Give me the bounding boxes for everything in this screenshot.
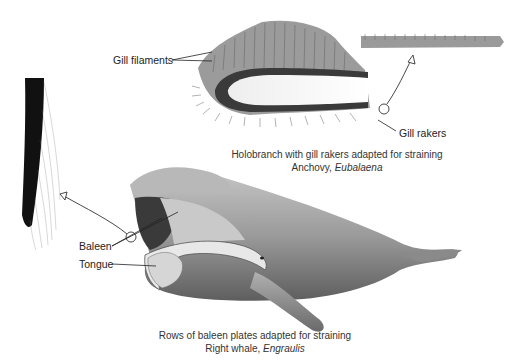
illustration	[0, 0, 524, 363]
magnify-arrow-gill	[387, 58, 412, 104]
gill-raker-magnified	[361, 34, 504, 48]
baleen-plate-magnified	[22, 78, 60, 250]
caption-holobranch: Holobranch with gill rakers adapted for …	[222, 148, 452, 174]
caption-holobranch-common: Anchovy,	[292, 162, 335, 173]
caption-baleen: Rows of baleen plates adapted for strain…	[150, 329, 360, 355]
label-tongue: Tongue	[79, 258, 113, 270]
magnify-arrow-baleen	[64, 196, 127, 234]
label-gill-rakers: Gill rakers	[399, 127, 446, 139]
label-gill-filaments: Gill filaments	[113, 54, 173, 66]
holobranch-drawing	[192, 21, 370, 127]
caption-baleen-genus: Engraulis	[263, 343, 305, 354]
caption-baleen-common: Right whale,	[205, 343, 263, 354]
magnify-circle-gill	[379, 104, 389, 114]
caption-holobranch-genus: Eubalaena	[335, 162, 383, 173]
caption-holobranch-line1: Holobranch with gill rakers adapted for …	[222, 148, 452, 161]
label-baleen: Baleen	[79, 240, 112, 252]
gill-rakers-leader	[378, 120, 396, 131]
caption-baleen-line1: Rows of baleen plates adapted for strain…	[150, 329, 360, 342]
right-whale-drawing	[130, 167, 462, 332]
